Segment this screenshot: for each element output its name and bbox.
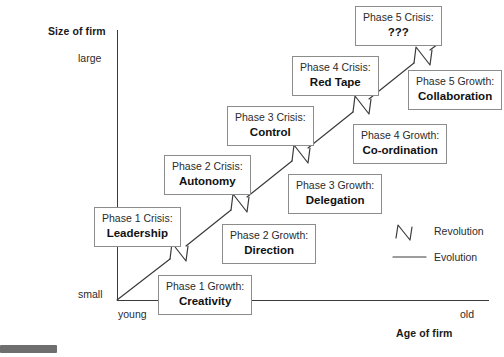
zigzag-icon — [388, 221, 434, 241]
phase-5-crisis-title: Phase 5 Crisis: — [363, 11, 434, 24]
line-icon — [388, 247, 434, 267]
revolution-marker-5 — [414, 47, 432, 65]
phase-1-crisis-title: Phase 1 Crisis: — [102, 212, 173, 225]
phase-2-crisis-box: Phase 2 Crisis: Autonomy — [164, 155, 251, 195]
greiner-growth-model-diagram: Size of firm Age of firm large small you… — [0, 0, 504, 357]
phase-4-growth-value: Co-ordination — [361, 143, 439, 157]
evolution-segment-4 — [308, 112, 353, 148]
phase-3-growth-value: Delegation — [296, 193, 374, 207]
y-axis-line — [117, 30, 118, 301]
phase-2-crisis-title: Phase 2 Crisis: — [172, 160, 243, 173]
phase-4-crisis-title: Phase 4 Crisis: — [300, 61, 371, 74]
revolution-marker-2 — [231, 194, 249, 212]
phase-3-growth-box: Phase 3 Growth: Delegation — [288, 174, 382, 214]
phase-5-growth-box: Phase 5 Growth: Collaboration — [408, 70, 502, 110]
phase-3-crisis-title: Phase 3 Crisis: — [235, 111, 306, 124]
x-axis-tick-old: old — [460, 308, 474, 320]
y-axis-tick-large: large — [78, 52, 101, 64]
phase-3-crisis-box: Phase 3 Crisis: Control — [227, 106, 314, 146]
phase-1-crisis-value: Leadership — [102, 226, 173, 240]
y-axis-title: Size of firm — [48, 25, 106, 37]
phase-2-growth-box: Phase 2 Growth: Direction — [222, 224, 316, 264]
revolution-marker-4 — [353, 96, 371, 114]
x-axis-title: Age of firm — [396, 327, 453, 339]
phase-1-growth-value: Creativity — [166, 294, 244, 308]
phase-2-crisis-value: Autonomy — [172, 174, 243, 188]
phase-4-crisis-box: Phase 4 Crisis: Red Tape — [292, 56, 379, 96]
revolution-marker-3 — [292, 145, 310, 163]
phase-5-growth-value: Collaboration — [416, 89, 494, 103]
phase-2-growth-value: Direction — [230, 243, 308, 257]
x-axis-tick-young: young — [118, 308, 147, 320]
legend-item-evolution: Evolution — [388, 244, 484, 270]
phase-3-crisis-value: Control — [235, 125, 306, 139]
legend-item-revolution: Revolution — [388, 218, 484, 244]
phase-1-crisis-box: Phase 1 Crisis: Leadership — [94, 207, 181, 247]
y-axis-tick-small: small — [78, 288, 103, 300]
phase-4-growth-title: Phase 4 Growth: — [361, 129, 439, 142]
phase-1-growth-title: Phase 1 Growth: — [166, 280, 244, 293]
legend-label-revolution: Revolution — [434, 225, 484, 237]
phase-5-growth-title: Phase 5 Growth: — [416, 75, 494, 88]
phase-5-crisis-box: Phase 5 Crisis: ??? — [355, 6, 442, 46]
phase-5-crisis-value: ??? — [363, 25, 434, 39]
phase-2-growth-title: Phase 2 Growth: — [230, 229, 308, 242]
legend: Revolution Evolution — [388, 218, 484, 270]
phase-4-crisis-value: Red Tape — [300, 75, 371, 89]
legend-label-evolution: Evolution — [434, 251, 477, 263]
phase-4-growth-box: Phase 4 Growth: Co-ordination — [353, 124, 447, 164]
phase-3-growth-title: Phase 3 Growth: — [296, 179, 374, 192]
scrollbar-artifact — [0, 345, 57, 353]
evolution-segment-3 — [247, 161, 292, 197]
phase-1-growth-box: Phase 1 Growth: Creativity — [158, 275, 252, 315]
